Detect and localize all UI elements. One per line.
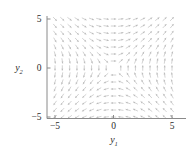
field-arrow-head	[114, 18, 116, 20]
field-arrow-head	[105, 69, 107, 71]
y-axis-ticks: −505	[31, 14, 50, 122]
field-arrow-head	[111, 95, 113, 97]
field-arrow-head	[54, 69, 56, 71]
field-arrow-head	[114, 32, 116, 34]
axis-labels-layer: y1 y2	[14, 62, 118, 147]
field-arrow-head	[61, 69, 63, 71]
vector-field-layer	[53, 17, 173, 118]
axis-title-subscript: 1	[115, 140, 118, 147]
field-arrow-head	[83, 69, 85, 71]
field-arrow-head	[111, 116, 113, 118]
field-arrow-head	[114, 60, 116, 62]
field-arrow-head	[111, 81, 113, 83]
field-arrow-head	[171, 66, 173, 68]
field-arrow-head	[114, 46, 116, 48]
y-tick-label: −5	[31, 112, 41, 122]
field-arrow-head	[134, 66, 136, 68]
field-arrow-head	[121, 18, 123, 20]
field-arrow-head	[120, 66, 122, 68]
x-tick-label: 0	[111, 121, 116, 131]
y-tick-label: 0	[37, 63, 42, 73]
field-arrow-head	[114, 25, 116, 27]
field-arrow-head	[107, 18, 109, 20]
field-arrow-head	[69, 69, 71, 71]
field-arrow-head	[104, 116, 106, 118]
field-arrow-head	[142, 66, 144, 68]
field-arrow-head	[119, 116, 121, 118]
field-arrow-head	[111, 88, 113, 90]
field-arrow-head	[111, 109, 113, 111]
axis-title-subscript: 2	[20, 68, 24, 75]
y-tick-label: 5	[37, 14, 42, 24]
field-arrow-head	[98, 69, 100, 71]
field-arrow-head	[164, 66, 166, 68]
y-axis-title: y2	[14, 62, 23, 75]
field-arrow-head	[114, 53, 116, 55]
field-arrow-head	[114, 39, 116, 41]
field-arrow-head	[111, 102, 113, 104]
direction-field-figure: −505 −505 y1 y2	[0, 0, 191, 152]
field-arrow-head	[111, 74, 113, 76]
x-tick-label: −5	[50, 121, 60, 131]
x-axis-title: y1	[109, 134, 118, 147]
field-arrow-head	[91, 69, 93, 71]
field-arrow-head	[127, 66, 129, 68]
field-arrow-head	[76, 69, 78, 71]
plot-canvas: −505 −505 y1 y2	[0, 0, 191, 152]
x-tick-label: 5	[170, 121, 175, 131]
field-arrow-head	[149, 66, 151, 68]
field-arrow-head	[156, 66, 158, 68]
